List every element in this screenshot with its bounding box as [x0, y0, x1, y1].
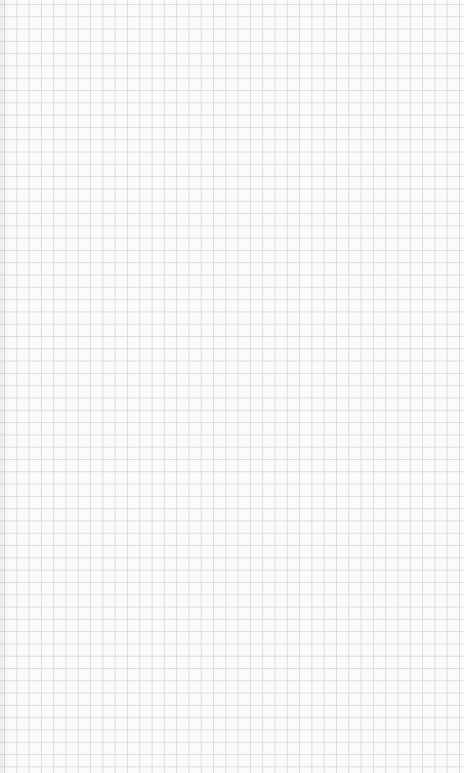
grid-paper-background — [0, 0, 464, 773]
